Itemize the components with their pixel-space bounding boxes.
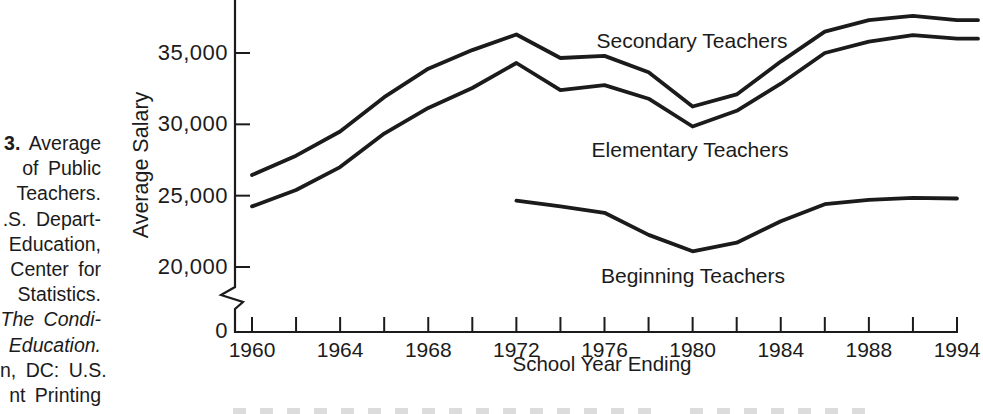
y-tick-label: 35,000 (128, 40, 228, 66)
series-line-beginning-teachers (516, 198, 957, 252)
figure: 3. Averageof PublicTeachers..S. Depart-E… (0, 0, 983, 414)
series-label-beginning-teachers: Beginning Teachers (601, 264, 785, 288)
x-tick-label: 1988 (846, 338, 893, 362)
axes-with-break (221, 0, 958, 332)
cropped-text-remnant (690, 408, 870, 414)
x-tick-label: 1968 (405, 338, 452, 362)
x-tick-label: 1976 (581, 338, 628, 362)
y-tick-label: 25,000 (128, 183, 228, 209)
y-tick-label: 0 (128, 318, 228, 344)
x-tick-label: 1964 (317, 338, 364, 362)
series-label-elementary-teachers: Elementary Teachers (592, 138, 789, 162)
series-label-secondary-teachers: Secondary Teachers (596, 29, 787, 53)
x-tick-label: 1972 (493, 338, 540, 362)
y-tick-label: 30,000 (128, 111, 228, 137)
x-tick-label: 1994 (934, 338, 981, 362)
x-tick-label: 1960 (229, 338, 276, 362)
x-tick-label: 1980 (669, 338, 716, 362)
x-tick-label: 1984 (757, 338, 804, 362)
y-tick-label: 20,000 (128, 254, 228, 280)
cropped-text-remnant (233, 408, 663, 414)
